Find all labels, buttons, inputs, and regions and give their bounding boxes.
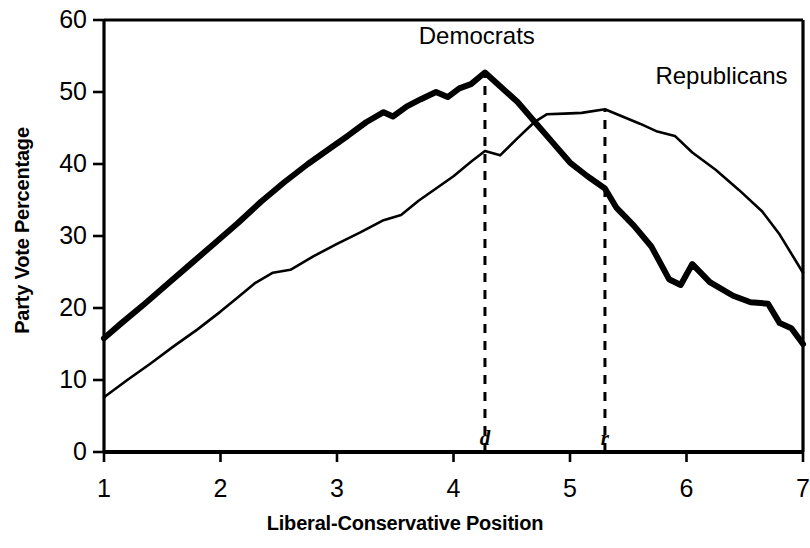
x-tick-label: 6 <box>667 476 707 501</box>
y-tick-label: 20 <box>27 295 87 320</box>
y-tick-label: 40 <box>27 151 87 176</box>
marker-label-r: r <box>590 428 620 449</box>
x-tick-label: 7 <box>783 476 810 501</box>
x-tick-label: 4 <box>434 476 474 501</box>
chart-figure: Party Vote Percentage Liberal-Conservati… <box>0 0 810 548</box>
marker-label-d: d <box>470 428 500 449</box>
x-axis-title: Liberal-Conservative Position <box>0 512 810 535</box>
democrats-label: Democrats <box>419 24 535 48</box>
y-tick-label: 0 <box>27 439 87 464</box>
x-tick-label: 5 <box>550 476 590 501</box>
y-tick-label: 30 <box>27 223 87 248</box>
x-tick-label: 1 <box>84 476 124 501</box>
series-line-democrats <box>104 73 803 344</box>
x-tick-label: 2 <box>201 476 241 501</box>
series-line-republicans <box>104 109 803 397</box>
y-tick-label: 50 <box>27 79 87 104</box>
y-tick-label: 10 <box>27 367 87 392</box>
republicans-label: Republicans <box>655 64 787 88</box>
x-tick-label: 3 <box>317 476 357 501</box>
y-tick-label: 60 <box>27 7 87 32</box>
